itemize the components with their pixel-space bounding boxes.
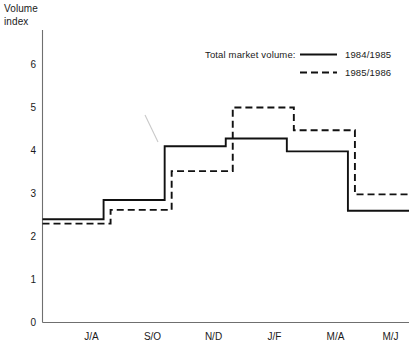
y-tick-labels: 6 5 4 3 2 1 0 xyxy=(30,59,36,328)
x-tick-label-mj: M/J xyxy=(382,331,398,342)
legend-label-1985-1986: 1985/1986 xyxy=(345,67,391,78)
x-axis: J/A S/O N/D J/F M/A M/J xyxy=(43,323,410,342)
legend-label-1984-1985: 1984/1985 xyxy=(345,49,391,60)
x-tick-label-jf: J/F xyxy=(268,331,282,342)
x-tick-label-so: S/O xyxy=(144,331,161,342)
scan-artifact-line xyxy=(145,115,158,142)
y-tick-label: 4 xyxy=(30,145,36,156)
series-line-1985-1986 xyxy=(43,108,410,224)
x-tick-label-ma: M/A xyxy=(327,331,345,342)
chart-canvas: 6 5 4 3 2 1 0 J/A S/O N/D J/F M/A M/J xyxy=(0,0,414,358)
x-tick-labels: J/A S/O N/D J/F M/A M/J xyxy=(84,331,398,342)
x-tick-label-ja: J/A xyxy=(84,331,99,342)
y-tick-label: 3 xyxy=(30,188,36,199)
legend-title: Total market volume: xyxy=(205,49,296,60)
y-tick-label: 6 xyxy=(30,59,36,70)
legend: Total market volume: 1984/1985 1985/1986 xyxy=(205,49,391,78)
y-tick-label: 2 xyxy=(30,231,36,242)
y-tick-label: 5 xyxy=(30,102,36,113)
x-tick-label-nd: N/D xyxy=(205,331,222,342)
series-group xyxy=(43,108,410,224)
y-axis: 6 5 4 3 2 1 0 xyxy=(30,30,42,328)
y-tick-label: 0 xyxy=(30,317,36,328)
volume-index-step-chart: Volume index 6 5 4 3 2 1 0 J/A S/O N/D J… xyxy=(0,0,414,358)
y-tick-label: 1 xyxy=(30,274,36,285)
